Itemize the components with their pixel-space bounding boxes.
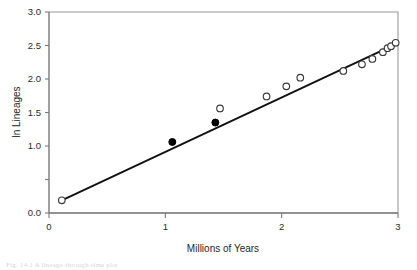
x-tick-label: 0 bbox=[46, 221, 51, 232]
y-tick-label: 2.5 bbox=[28, 40, 41, 51]
fit-line bbox=[62, 44, 396, 200]
data-point-filled bbox=[212, 119, 219, 126]
x-axis-title: Millions of Years bbox=[187, 243, 259, 254]
x-tick-label: 2 bbox=[279, 221, 284, 232]
axes bbox=[49, 12, 398, 213]
y-axis-title: ln Lineages bbox=[11, 86, 22, 137]
data-point-open bbox=[297, 74, 304, 81]
data-point-open bbox=[263, 93, 270, 100]
y-tick-label: 1.0 bbox=[28, 140, 41, 151]
data-point-open bbox=[369, 56, 376, 63]
data-point-open bbox=[217, 105, 224, 112]
regression-line bbox=[62, 44, 396, 200]
y-tick-labels: 0.01.01.52.02.53.0 bbox=[28, 6, 41, 218]
cut-off-caption: Fig. 14.1 A lineage-through-time plot bbox=[6, 261, 186, 270]
plot-frame bbox=[49, 12, 398, 213]
figure-container: 0.01.01.52.02.53.0 0123 Millions of Year… bbox=[0, 0, 417, 270]
y-tick-label: 2.0 bbox=[28, 73, 41, 84]
y-tick-label: 1.5 bbox=[28, 107, 41, 118]
x-tick-labels: 0123 bbox=[46, 221, 400, 232]
data-point-open bbox=[392, 40, 399, 47]
data-point-open bbox=[359, 61, 366, 68]
data-point-open bbox=[283, 83, 290, 90]
filled-circle-markers bbox=[169, 119, 219, 145]
y-tick-label: 3.0 bbox=[28, 6, 41, 17]
x-tick-label: 3 bbox=[395, 221, 400, 232]
x-tick-label: 1 bbox=[163, 221, 168, 232]
data-point-open bbox=[340, 68, 347, 75]
y-tick-label: 0.0 bbox=[28, 207, 41, 218]
x-tick-marks bbox=[49, 213, 398, 218]
data-point-open bbox=[58, 197, 65, 204]
data-point-filled bbox=[169, 138, 176, 145]
scatter-plot: 0.01.01.52.02.53.0 0123 Millions of Year… bbox=[0, 0, 417, 270]
